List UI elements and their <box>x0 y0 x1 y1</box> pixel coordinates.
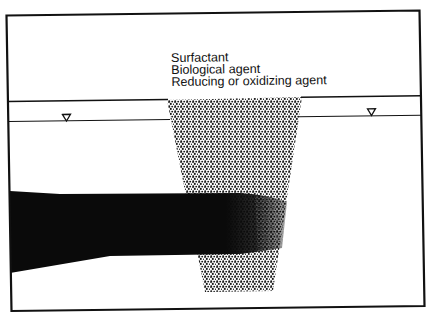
diagram-canvas <box>0 0 433 319</box>
water-table-triangle-left-icon <box>63 114 71 121</box>
water-table-line-left <box>9 120 170 122</box>
label-reducing-oxidizing-agent: Reducing or oxidizing agent <box>171 74 327 88</box>
plume-fade-edge <box>255 194 287 252</box>
water-table-triangle-right-icon <box>368 109 376 116</box>
ground-surface-line-left <box>8 100 168 102</box>
treatment-agent-labels: Surfactant Biological agent Reducing or … <box>171 50 327 88</box>
water-table-line-right <box>298 115 421 117</box>
ground-surface-line-right <box>301 96 421 98</box>
